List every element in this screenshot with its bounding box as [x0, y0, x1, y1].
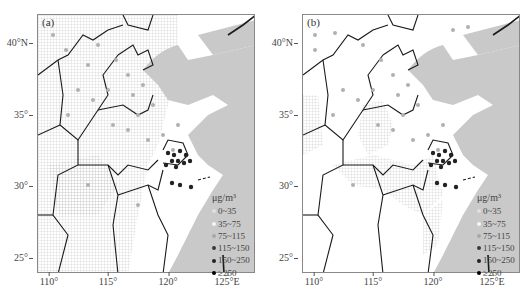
- legend-dot-icon: [212, 259, 216, 263]
- legend-item: 75~115: [477, 230, 515, 242]
- legend-dot-icon: [212, 246, 216, 250]
- y-tick-35: 35°: [279, 109, 298, 120]
- y-tick-25: 25°: [14, 252, 33, 263]
- y-tick-40: 40°N: [7, 37, 33, 48]
- legend-item: 115~150: [477, 242, 515, 254]
- legend-item: 150~250: [212, 254, 250, 266]
- legend-item: 0~35: [477, 205, 515, 217]
- legend-dot-icon: [212, 209, 216, 213]
- legend-dot-icon: [477, 222, 481, 226]
- y-tick-35: 35°: [14, 109, 33, 120]
- legend-dot-icon: [212, 271, 216, 275]
- y-tick-30: 30°: [14, 180, 33, 191]
- x-tick-110: 110°: [40, 276, 59, 287]
- legend-item: 0~35: [212, 205, 250, 217]
- legend-item: 150~250: [477, 254, 515, 266]
- legend-dot-icon: [477, 271, 481, 275]
- y-tick-40: 40°N: [272, 37, 298, 48]
- legend-unit: μg/m³: [212, 192, 250, 204]
- legend-dot-icon: [212, 234, 216, 238]
- legend-item: 115~150: [212, 242, 250, 254]
- legend-b: μg/m³ 0~35 35~75 75~115 115~150 150~250 …: [477, 192, 515, 279]
- panel-label-b: (b): [307, 16, 320, 28]
- y-tick-30: 30°: [279, 180, 298, 191]
- legend-item: ≥250: [212, 267, 250, 279]
- y-tick-25: 25°: [279, 252, 298, 263]
- legend-item: 75~115: [212, 230, 250, 242]
- x-tick-120: 120°: [424, 276, 443, 287]
- legend-item: ≥250: [477, 267, 515, 279]
- legend-dot-icon: [477, 234, 481, 238]
- legend-dot-icon: [212, 222, 216, 226]
- legend-a: μg/m³ 0~35 35~75 75~115 115~150 150~250 …: [212, 192, 250, 279]
- legend-dot-icon: [477, 259, 481, 263]
- x-tick-115: 115°: [99, 276, 118, 287]
- panel-label-a: (a): [42, 16, 54, 28]
- legend-item: 35~75: [212, 218, 250, 230]
- legend-item: 35~75: [477, 218, 515, 230]
- legend-dot-icon: [477, 209, 481, 213]
- x-tick-115: 115°: [364, 276, 383, 287]
- legend-unit: μg/m³: [477, 192, 515, 204]
- map-panel-a: 40°N 35° 30° 25°: [0, 0, 264, 299]
- map-panel-b: 40°N 35° 30° 25°: [265, 0, 528, 299]
- x-tick-120: 120°: [159, 276, 178, 287]
- x-tick-110: 110°: [305, 276, 324, 287]
- legend-dot-icon: [477, 246, 481, 250]
